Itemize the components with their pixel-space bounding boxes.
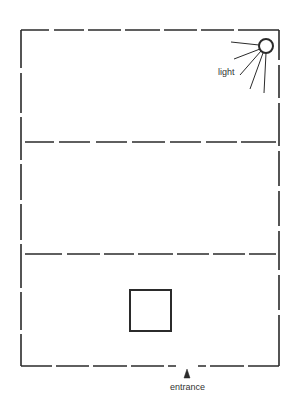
light-circle-icon bbox=[259, 39, 273, 53]
room-outline bbox=[21, 30, 279, 366]
entrance-label: entrance bbox=[170, 383, 205, 392]
light-label: light bbox=[218, 68, 235, 77]
square-object bbox=[130, 290, 171, 331]
entrance-arrow-icon bbox=[184, 369, 190, 378]
floor-plan-diagram: light entrance bbox=[0, 0, 298, 397]
